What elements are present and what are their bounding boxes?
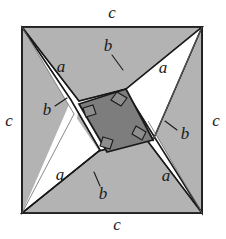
label-c-right: c: [212, 111, 220, 130]
label-a-bottom-right: a: [162, 166, 171, 185]
label-c-left: c: [5, 111, 13, 130]
label-b-top: b: [104, 36, 113, 55]
label-a-bottom-left: a: [56, 165, 65, 184]
label-b-left: b: [43, 100, 52, 119]
pythagorean-diagram: c c c c a a a a b b b b: [0, 0, 226, 239]
label-c-bottom: c: [113, 215, 121, 234]
label-a-top-left: a: [57, 57, 66, 76]
diagram-canvas: c c c c a a a a b b b b: [0, 0, 226, 239]
label-a-top-right: a: [159, 58, 168, 77]
label-b-right: b: [181, 124, 190, 143]
label-c-top: c: [108, 3, 116, 22]
label-b-bottom: b: [99, 184, 108, 203]
